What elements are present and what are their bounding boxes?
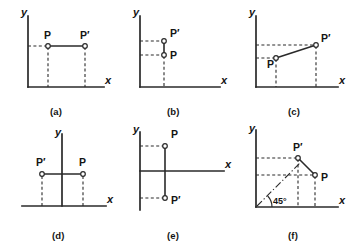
panel-d-point-p	[81, 172, 86, 177]
panel-f-point-pprime	[296, 156, 301, 161]
panel-b-label-pprime: P′	[170, 27, 180, 39]
panel-e-label-p: P	[171, 128, 178, 140]
panel-a-point-pprime	[83, 44, 88, 49]
panel-f-label-x: x	[338, 194, 346, 206]
panel-b-label-y: y	[132, 6, 140, 18]
panel-c-connector	[276, 45, 316, 58]
panel-c-label-p: P	[267, 58, 274, 70]
panel-d-label-pprime: P′	[36, 156, 46, 168]
panel-e-label-x: x	[224, 158, 232, 170]
panel-c-label-x: x	[338, 74, 346, 86]
panel-b-label-x: x	[220, 74, 228, 86]
panel-a-label-pprime: P′	[80, 29, 90, 41]
panel-d: P′ P y x	[6, 128, 120, 228]
panel-e-point-pprime	[163, 196, 168, 201]
panel-a-label-y: y	[20, 6, 28, 18]
panel-c-label-pprime: P′	[321, 32, 331, 44]
panel-d-label-y: y	[54, 128, 62, 138]
panel-f-label-y: y	[248, 124, 256, 134]
panel-b-label-p: P	[170, 49, 177, 61]
panel-b-point-pprime	[162, 39, 167, 44]
panel-f-caption: (f)	[288, 230, 298, 241]
panel-a: P P′ y x	[6, 4, 114, 104]
panel-e-point-p	[163, 144, 168, 149]
panel-e: P P′ y x	[124, 124, 234, 228]
panel-c: P P′ y x	[240, 4, 354, 104]
panel-b: P P′ y x	[124, 4, 229, 104]
panel-c-label-y: y	[248, 6, 256, 18]
panel-b-caption: (b)	[167, 106, 180, 117]
panel-e-label-pprime: P′	[171, 194, 181, 206]
panel-f-point-p	[313, 173, 318, 178]
panel-f-angle-arc	[268, 196, 272, 207]
panel-d-caption: (d)	[52, 230, 65, 241]
figure-container: P P′ y x (a) P P′ y x (b) P P′ y x (c)	[0, 0, 354, 250]
panel-f: P′ P 45° y x	[240, 124, 354, 228]
panel-a-label-x: x	[104, 74, 112, 86]
panel-e-caption: (e)	[167, 230, 179, 241]
panel-c-point-p	[274, 56, 279, 61]
panel-a-label-p: P	[44, 29, 51, 41]
panel-a-point-p	[46, 44, 51, 49]
panel-f-label-pprime: P′	[293, 141, 303, 153]
panel-a-caption: (a)	[50, 106, 62, 117]
panel-c-point-pprime	[314, 43, 319, 48]
panel-d-point-pprime	[40, 172, 45, 177]
panel-f-label-p: P	[321, 171, 328, 183]
panel-f-label-angle: 45°	[273, 196, 287, 206]
panel-e-label-y: y	[132, 124, 140, 135]
panel-c-caption: (c)	[288, 106, 300, 117]
panel-d-label-p: P	[79, 156, 86, 168]
panel-b-point-p	[162, 53, 167, 58]
panel-d-label-x: x	[106, 193, 114, 205]
panel-f-connector	[298, 158, 315, 175]
